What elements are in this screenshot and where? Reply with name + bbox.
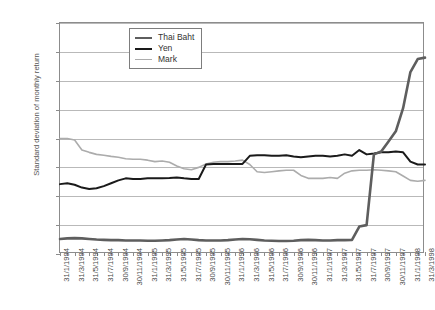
chart-legend: Thai Baht Yen Mark bbox=[129, 28, 202, 69]
x-axis-tick-label: 31/1/1996 bbox=[237, 248, 246, 308]
x-axis-tick-label: 31/3/1994 bbox=[77, 248, 86, 308]
x-axis-tick-label: 30/11/1995 bbox=[223, 248, 232, 308]
x-axis-tick-label: 31/5/1997 bbox=[354, 248, 363, 308]
x-axis-tick-label: 31/5/1994 bbox=[91, 248, 100, 308]
x-axis-tick-label: 31/7/1997 bbox=[369, 248, 378, 308]
legend-swatch-thai-baht bbox=[135, 37, 152, 39]
series-line-mark bbox=[60, 139, 425, 182]
x-axis-tick-label: 31/7/1995 bbox=[194, 248, 203, 308]
x-axis-tick-label: 31/3/1996 bbox=[252, 248, 261, 308]
x-axis-tick-label: 31/7/1996 bbox=[281, 248, 290, 308]
x-axis-tick-label: 31/5/1995 bbox=[179, 248, 188, 308]
x-axis-tick-label: 30/9/1994 bbox=[121, 248, 130, 308]
x-axis-tick-label: 30/9/1996 bbox=[296, 248, 305, 308]
plot-area bbox=[59, 22, 424, 253]
y-axis-title: Standard deviation of monthly return bbox=[32, 15, 41, 215]
chart-title bbox=[0, 0, 435, 7]
series-line-thai-baht bbox=[60, 58, 425, 241]
legend-swatch-yen bbox=[135, 48, 152, 50]
x-axis-tick bbox=[425, 252, 426, 256]
x-axis-tick-label: 30/11/1997 bbox=[398, 248, 407, 308]
legend-swatch-mark bbox=[135, 59, 152, 60]
legend-item-mark: Mark bbox=[135, 54, 194, 65]
x-axis-tick-label: 31/1/1994 bbox=[62, 248, 71, 308]
x-axis-tick-label: 31/3/1997 bbox=[340, 248, 349, 308]
legend-label-thai-baht: Thai Baht bbox=[158, 32, 194, 43]
legend-item-yen: Yen bbox=[135, 43, 194, 54]
series-lines bbox=[60, 23, 425, 254]
x-axis-tick-label: 31/5/1996 bbox=[267, 248, 276, 308]
x-axis-tick-label: 31/3/1995 bbox=[164, 248, 173, 308]
x-axis-tick-label: 30/11/1994 bbox=[135, 248, 144, 308]
x-axis-tick-label: 31/1/1997 bbox=[325, 248, 334, 308]
chart-container: Standard deviation of monthly return 0.0… bbox=[0, 0, 435, 310]
legend-label-mark: Mark bbox=[158, 54, 177, 65]
legend-label-yen: Yen bbox=[158, 43, 172, 54]
x-axis-tick-label: 31/7/1994 bbox=[106, 248, 115, 308]
x-axis-tick-label: 30/11/1996 bbox=[310, 248, 319, 308]
legend-item-thai-baht: Thai Baht bbox=[135, 32, 194, 43]
x-axis-tick-label: 31/1/1995 bbox=[150, 248, 159, 308]
x-axis-tick-label: 31/3/1998 bbox=[427, 248, 435, 308]
x-axis-tick-label: 31/1/1998 bbox=[413, 248, 422, 308]
x-axis-tick-label: 30/9/1995 bbox=[208, 248, 217, 308]
x-axis-tick-labels: 31/1/199431/3/199431/5/199431/7/199430/9… bbox=[59, 256, 424, 310]
x-axis-tick-label: 30/9/1997 bbox=[383, 248, 392, 308]
